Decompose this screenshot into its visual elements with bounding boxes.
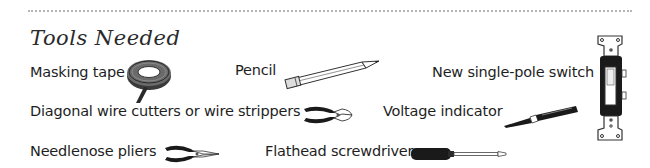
tool-label-masking-tape: Masking tape [30, 64, 125, 80]
tool-label-single-pole-switch: New single-pole switch [432, 64, 594, 80]
tool-label-flathead-screwdriver: Flathead screwdriver [265, 143, 413, 159]
masking-tape-icon [124, 54, 174, 106]
tool-label-wire-cutters: Diagonal wire cutters or wire strippers [30, 103, 300, 119]
voltage-indicator-icon [502, 104, 580, 130]
flathead-screwdriver-icon [410, 146, 508, 162]
tool-label-pencil: Pencil [235, 62, 276, 78]
needlenose-pliers-icon [163, 143, 221, 165]
wire-cutters-icon [302, 103, 354, 127]
dotted-divider [28, 10, 632, 12]
section-title: Tools Needed [30, 26, 180, 50]
pencil-icon [282, 58, 382, 90]
single-pole-switch-icon [594, 34, 630, 142]
tool-label-needlenose-pliers: Needlenose pliers [30, 143, 156, 159]
tool-label-voltage-indicator: Voltage indicator [383, 103, 502, 119]
